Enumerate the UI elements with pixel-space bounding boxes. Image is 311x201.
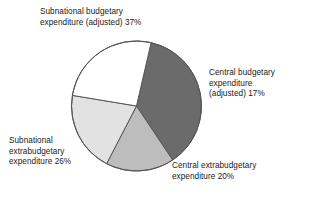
pie-label-subnational-budgetary: Subnational budgetary expenditure (adjus… bbox=[40, 7, 200, 28]
pie-label-central-budgetary: Central budgetary expenditure (adjusted)… bbox=[209, 68, 309, 100]
pie-label-central-extrabudgetary: Central extrabudgetary expenditure 20% bbox=[172, 161, 307, 182]
pie-chart-figure: Subnational budgetary expenditure (adjus… bbox=[0, 0, 311, 201]
pie-label-subnational-extrabudgetary: Subnational extrabudgetary expenditure 2… bbox=[9, 136, 114, 168]
